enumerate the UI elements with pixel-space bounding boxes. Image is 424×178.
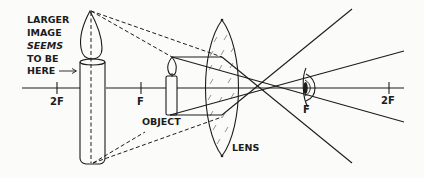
arrow-right-icon <box>59 69 77 74</box>
lens-label: LENS <box>232 142 259 153</box>
lens-diagram: 2F F F 2F LARGER IMAGE SEEMS TO BE HERE … <box>0 0 424 178</box>
left-f-label: F <box>137 96 144 107</box>
virtual-image-candle <box>80 11 105 164</box>
annotation-line-3: SEEMS <box>27 40 63 51</box>
light-rays <box>91 9 404 163</box>
object-candle <box>166 57 177 115</box>
image-annotation: LARGER IMAGE SEEMS TO BE HERE <box>27 14 77 76</box>
annotation-line-1: LARGER <box>27 14 70 25</box>
annotation-line-4: TO BE <box>27 53 59 64</box>
object-label: OBJECT <box>142 116 181 127</box>
annotation-line-2: IMAGE <box>27 27 62 38</box>
annotation-line-5: HERE <box>27 65 55 76</box>
small-flame-icon <box>168 57 177 75</box>
right-2f-label: 2F <box>381 95 395 106</box>
left-2f-label: 2F <box>50 96 64 107</box>
lens-hatching <box>208 35 234 144</box>
optical-axis <box>22 82 404 94</box>
right-f-label: F <box>303 104 310 115</box>
